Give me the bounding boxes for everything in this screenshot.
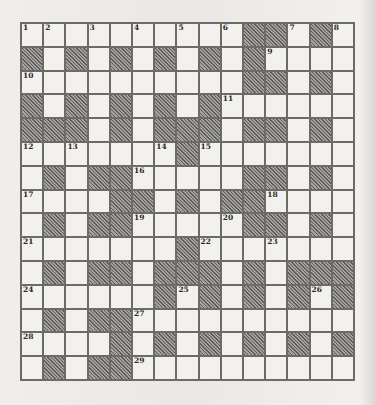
answer-cell[interactable]: 11 (222, 95, 242, 117)
answer-cell[interactable] (22, 214, 42, 236)
answer-cell[interactable]: 1 (22, 24, 42, 46)
answer-cell[interactable] (133, 333, 153, 355)
answer-cell[interactable] (66, 286, 86, 308)
answer-cell[interactable] (222, 48, 242, 70)
answer-cell[interactable] (244, 357, 264, 379)
answer-cell[interactable] (222, 357, 242, 379)
answer-cell[interactable]: 4 (133, 24, 153, 46)
answer-cell[interactable] (244, 238, 264, 260)
answer-cell[interactable] (89, 119, 109, 141)
answer-cell[interactable] (266, 357, 286, 379)
answer-cell[interactable] (89, 72, 109, 94)
answer-cell[interactable]: 13 (66, 143, 86, 165)
answer-cell[interactable] (66, 167, 86, 189)
answer-cell[interactable] (22, 262, 42, 284)
answer-cell[interactable]: 15 (200, 143, 220, 165)
answer-cell[interactable] (66, 238, 86, 260)
answer-cell[interactable]: 9 (266, 48, 286, 70)
answer-cell[interactable] (288, 143, 308, 165)
answer-cell[interactable] (222, 167, 242, 189)
answer-cell[interactable] (222, 238, 242, 260)
answer-cell[interactable] (288, 238, 308, 260)
answer-cell[interactable] (200, 167, 220, 189)
answer-cell[interactable] (133, 48, 153, 70)
answer-cell[interactable] (177, 310, 197, 332)
answer-cell[interactable] (288, 119, 308, 141)
answer-cell[interactable] (333, 238, 353, 260)
answer-cell[interactable] (200, 191, 220, 213)
answer-cell[interactable] (244, 310, 264, 332)
answer-cell[interactable] (66, 310, 86, 332)
answer-cell[interactable] (133, 143, 153, 165)
answer-cell[interactable] (155, 72, 175, 94)
answer-cell[interactable] (177, 48, 197, 70)
answer-cell[interactable] (333, 357, 353, 379)
answer-cell[interactable] (244, 95, 264, 117)
answer-cell[interactable]: 17 (22, 191, 42, 213)
answer-cell[interactable] (22, 310, 42, 332)
answer-cell[interactable] (177, 167, 197, 189)
answer-cell[interactable] (66, 333, 86, 355)
answer-cell[interactable] (311, 48, 331, 70)
answer-cell[interactable]: 29 (133, 357, 153, 379)
answer-cell[interactable]: 6 (222, 24, 242, 46)
answer-cell[interactable] (133, 95, 153, 117)
answer-cell[interactable]: 8 (333, 24, 353, 46)
answer-cell[interactable] (333, 95, 353, 117)
answer-cell[interactable] (89, 95, 109, 117)
answer-cell[interactable] (266, 95, 286, 117)
answer-cell[interactable] (22, 167, 42, 189)
answer-cell[interactable] (177, 333, 197, 355)
answer-cell[interactable] (288, 167, 308, 189)
answer-cell[interactable] (177, 357, 197, 379)
answer-cell[interactable]: 2 (44, 24, 64, 46)
answer-cell[interactable] (66, 214, 86, 236)
answer-cell[interactable] (288, 48, 308, 70)
answer-cell[interactable] (311, 333, 331, 355)
answer-cell[interactable] (177, 95, 197, 117)
answer-cell[interactable] (155, 214, 175, 236)
answer-cell[interactable] (133, 119, 153, 141)
answer-cell[interactable] (333, 143, 353, 165)
answer-cell[interactable] (44, 238, 64, 260)
answer-cell[interactable] (200, 357, 220, 379)
answer-cell[interactable] (266, 286, 286, 308)
answer-cell[interactable] (311, 310, 331, 332)
answer-cell[interactable] (177, 214, 197, 236)
answer-cell[interactable] (133, 262, 153, 284)
answer-cell[interactable] (200, 24, 220, 46)
answer-cell[interactable] (155, 191, 175, 213)
answer-cell[interactable] (333, 214, 353, 236)
answer-cell[interactable] (89, 48, 109, 70)
answer-cell[interactable]: 7 (288, 24, 308, 46)
answer-cell[interactable] (111, 286, 131, 308)
answer-cell[interactable]: 21 (22, 238, 42, 260)
answer-cell[interactable] (44, 95, 64, 117)
answer-cell[interactable] (155, 310, 175, 332)
answer-cell[interactable] (44, 48, 64, 70)
answer-cell[interactable] (244, 143, 264, 165)
answer-cell[interactable] (133, 286, 153, 308)
answer-cell[interactable] (89, 333, 109, 355)
answer-cell[interactable] (266, 310, 286, 332)
answer-cell[interactable] (288, 357, 308, 379)
answer-cell[interactable] (222, 286, 242, 308)
answer-cell[interactable] (89, 191, 109, 213)
answer-cell[interactable] (111, 24, 131, 46)
answer-cell[interactable] (66, 72, 86, 94)
answer-cell[interactable] (222, 310, 242, 332)
answer-cell[interactable]: 22 (200, 238, 220, 260)
answer-cell[interactable] (66, 24, 86, 46)
answer-cell[interactable] (200, 214, 220, 236)
answer-cell[interactable] (44, 286, 64, 308)
answer-cell[interactable] (333, 167, 353, 189)
answer-cell[interactable] (222, 119, 242, 141)
answer-cell[interactable] (222, 72, 242, 94)
answer-cell[interactable] (222, 262, 242, 284)
answer-cell[interactable]: 24 (22, 286, 42, 308)
answer-cell[interactable] (111, 72, 131, 94)
answer-cell[interactable] (44, 143, 64, 165)
answer-cell[interactable]: 27 (133, 310, 153, 332)
answer-cell[interactable] (222, 333, 242, 355)
answer-cell[interactable] (177, 72, 197, 94)
